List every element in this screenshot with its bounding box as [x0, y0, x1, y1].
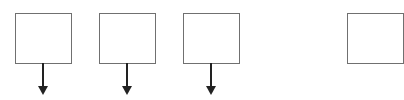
box-2	[99, 13, 156, 64]
box-3	[183, 13, 240, 64]
arrow-down-icon	[122, 63, 132, 95]
arrow-down-icon	[38, 63, 48, 95]
arrow-down-icon	[206, 63, 216, 95]
box-1	[15, 13, 72, 64]
box-4-partial	[347, 13, 404, 64]
